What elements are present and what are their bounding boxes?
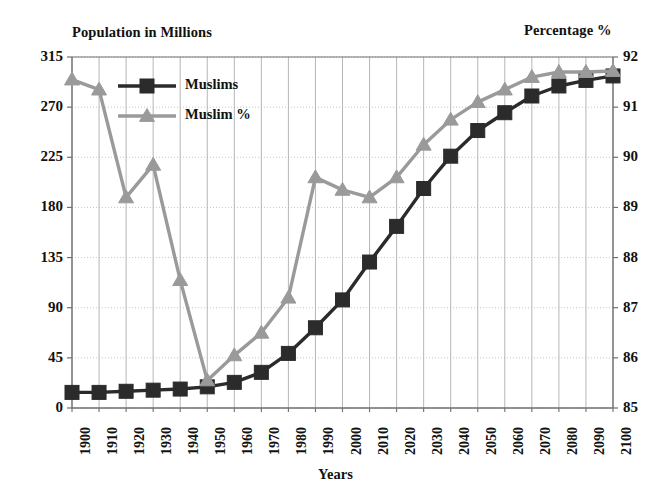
left-axis-tick-label: 180 — [41, 198, 64, 215]
legend-label: Muslim % — [185, 106, 251, 123]
data-point-marker — [417, 181, 431, 195]
x-axis-tick-label: 1920 — [132, 427, 148, 455]
legend-label: Muslims — [185, 76, 238, 93]
left-axis-tick-label: 135 — [41, 249, 64, 266]
grid-lines — [72, 57, 613, 408]
x-axis-tick-label: 1980 — [294, 427, 310, 455]
legend-swatch-marker — [140, 79, 154, 93]
legend — [118, 79, 176, 121]
x-axis-tick-label: 2030 — [430, 427, 446, 455]
data-point-marker — [119, 384, 133, 398]
x-axis-tick-label: 2080 — [565, 427, 581, 455]
data-point-marker — [254, 365, 268, 379]
left-axis-tick-label: 315 — [41, 48, 64, 65]
data-point-marker — [308, 321, 322, 335]
legend-item-muslim[interactable] — [118, 109, 176, 122]
x-axis-tick-label: 2020 — [403, 427, 419, 455]
right-axis-tick-label: 89 — [623, 198, 638, 215]
data-point-marker — [173, 273, 188, 286]
x-axis-tick-label: 1970 — [267, 427, 283, 455]
x-axis-tick-label: 1910 — [105, 427, 121, 455]
x-axis-tick-label: 1950 — [213, 427, 229, 455]
data-point-marker — [227, 375, 241, 389]
left-axis-tick-label: 270 — [41, 98, 64, 115]
x-axis-tick-label: 2070 — [538, 427, 554, 455]
right-axis-tick-label: 86 — [623, 349, 638, 366]
x-axis-tick-label: 2090 — [592, 427, 608, 455]
data-point-marker — [173, 382, 187, 396]
right-axis-tick-label: 85 — [623, 399, 638, 416]
data-point-marker — [146, 383, 160, 397]
x-axis-tick-label: 1900 — [78, 427, 94, 455]
data-point-marker — [336, 293, 350, 307]
x-axis-tick-label: 2050 — [484, 427, 500, 455]
plot-area — [0, 0, 671, 500]
data-point-marker — [498, 106, 512, 120]
left-axis-tick-label: 225 — [41, 148, 64, 165]
data-point-marker — [363, 255, 377, 269]
data-point-marker — [281, 290, 296, 303]
legend-item-muslims[interactable] — [118, 79, 176, 93]
left-axis-tick-label: 90 — [48, 299, 63, 316]
x-axis-tick-label: 1960 — [240, 427, 256, 455]
chart-container: Population in Millions Percentage % Year… — [0, 0, 671, 500]
x-axis-tick-label: 1990 — [321, 427, 337, 455]
x-axis-tick-label: 2060 — [511, 427, 527, 455]
x-axis-tick-label: 2100 — [619, 427, 635, 455]
left-axis-tick-label: 45 — [48, 349, 63, 366]
data-point-marker — [443, 112, 458, 125]
data-point-marker — [308, 170, 323, 183]
right-axis-tick-label: 92 — [623, 48, 638, 65]
x-axis-tick-label: 2040 — [457, 427, 473, 455]
x-axis-tick-label: 1940 — [186, 427, 202, 455]
x-axis-tick-label: 1930 — [159, 427, 175, 455]
data-point-marker — [525, 89, 539, 103]
x-axis-tick-label: 2010 — [376, 427, 392, 455]
data-point-marker — [65, 385, 79, 399]
data-point-marker — [146, 157, 161, 170]
x-axis-tick-label: 2000 — [349, 427, 365, 455]
data-point-marker — [92, 385, 106, 399]
right-axis-tick-label: 90 — [623, 148, 638, 165]
data-point-marker — [552, 79, 566, 93]
data-point-marker — [471, 124, 485, 138]
left-axis-tick-label: 0 — [56, 399, 64, 416]
data-point-marker — [65, 72, 80, 85]
right-axis-tick-label: 87 — [623, 299, 638, 316]
right-axis-tick-label: 88 — [623, 249, 638, 266]
data-point-marker — [444, 149, 458, 163]
data-point-marker — [390, 219, 404, 233]
data-point-marker — [281, 346, 295, 360]
right-axis-tick-label: 91 — [623, 98, 638, 115]
